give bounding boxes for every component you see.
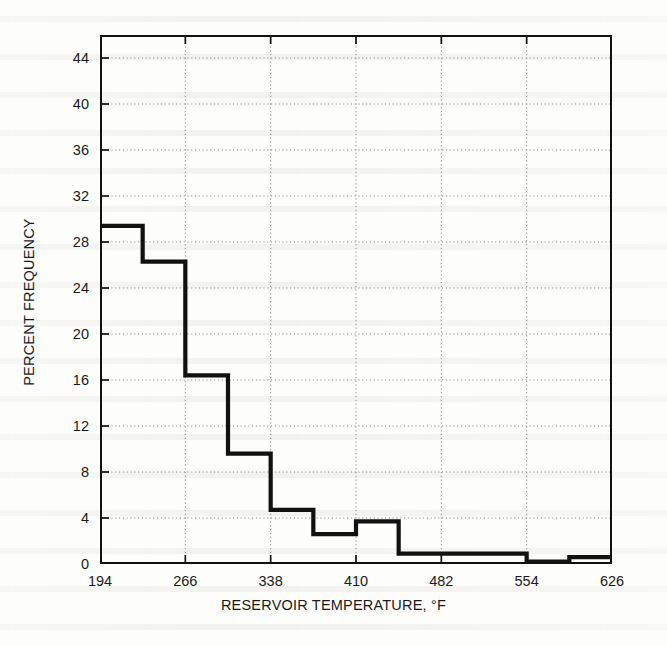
x-axis-title: RESERVOIR TEMPERATURE, °F (0, 597, 667, 613)
x-axis-title-text: RESERVOIR TEMPERATURE, °F (221, 597, 446, 613)
y-tick-label: 20 (73, 326, 89, 342)
x-tick-label: 626 (600, 573, 624, 589)
x-tick-label: 338 (259, 573, 283, 589)
y-tick-label: 12 (73, 418, 89, 434)
x-tick-label: 410 (344, 573, 368, 589)
y-axis-title: PERCENT FREQUENCY (16, 0, 42, 646)
y-tick-label: 28 (73, 234, 89, 250)
x-tick-label: 194 (88, 573, 112, 589)
y-tick-label: 32 (73, 188, 89, 204)
y-tick-label: 24 (73, 280, 89, 296)
y-tick-label: 16 (73, 372, 89, 388)
y-tick-label: 0 (81, 556, 89, 572)
chart-figure: PERCENT FREQUENCY 048121620242832364044 … (0, 0, 667, 646)
plot-area: 048121620242832364044 194266338410482554… (100, 35, 612, 564)
y-tick-label: 8 (81, 464, 89, 480)
y-tick-label: 44 (73, 50, 89, 66)
y-tick-label: 40 (73, 96, 89, 112)
x-tick-label: 482 (429, 573, 453, 589)
y-axis-title-text: PERCENT FREQUENCY (21, 218, 37, 386)
y-tick-label: 4 (81, 510, 89, 526)
x-tick-label: 266 (173, 573, 197, 589)
x-tick-label: 554 (515, 573, 539, 589)
y-tick-label: 36 (73, 142, 89, 158)
plot-frame (100, 35, 612, 564)
